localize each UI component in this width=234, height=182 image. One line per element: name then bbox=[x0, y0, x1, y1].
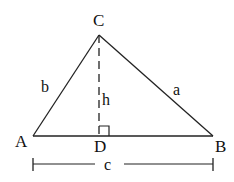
foot-label-d: D bbox=[94, 137, 106, 156]
side-label-a: a bbox=[173, 81, 180, 98]
dimension-label-c: c bbox=[104, 156, 111, 173]
vertex-label-a: A bbox=[15, 132, 28, 151]
triangle-diagram: C A B D b a h c bbox=[0, 0, 234, 182]
vertex-label-b: B bbox=[215, 137, 226, 156]
side-a-line bbox=[99, 35, 213, 136]
diagram-svg: C A B D b a h c bbox=[0, 0, 234, 182]
right-angle-marker bbox=[99, 126, 109, 136]
vertex-label-c: C bbox=[93, 11, 104, 30]
side-label-b: b bbox=[41, 78, 49, 95]
altitude-label-h: h bbox=[102, 91, 110, 108]
